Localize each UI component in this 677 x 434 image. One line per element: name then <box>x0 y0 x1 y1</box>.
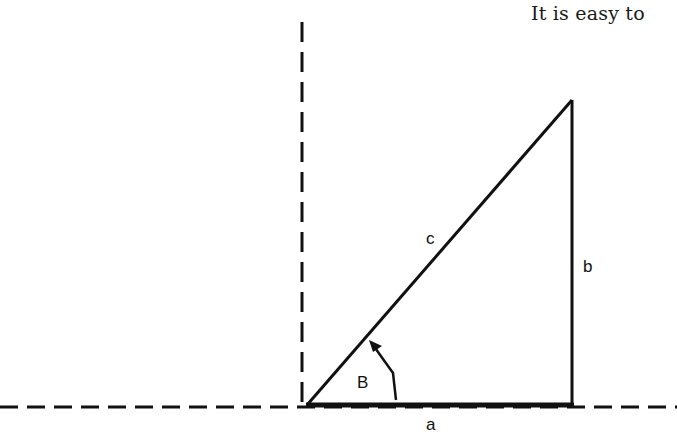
label-angle-b: B <box>357 373 368 392</box>
label-side-c: c <box>426 229 435 248</box>
right-triangle-diagram: B a b c <box>0 0 677 434</box>
label-side-b: b <box>583 257 592 276</box>
label-side-a: a <box>426 415 436 434</box>
arrowhead-icon <box>369 340 382 352</box>
angle-arrow-icon <box>373 345 396 400</box>
side-c-hypotenuse <box>307 100 572 405</box>
